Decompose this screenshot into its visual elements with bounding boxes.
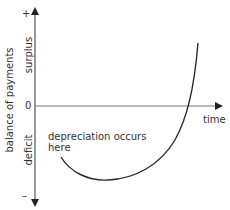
j-curve-line xyxy=(61,43,198,180)
deficit-label: deficit xyxy=(23,135,34,166)
surplus-label: surplus xyxy=(23,37,34,73)
annotation-line-2: here xyxy=(48,142,71,153)
x-axis-label: time xyxy=(203,114,226,125)
annotation-line-1: depreciation occurs xyxy=(48,131,146,142)
y-axis-label: balance of payments xyxy=(4,47,15,152)
j-curve-chart xyxy=(0,0,230,210)
y-tick-plus: + xyxy=(22,8,30,19)
y-tick-zero: 0 xyxy=(25,100,31,111)
y-tick-minus: – xyxy=(22,190,27,201)
